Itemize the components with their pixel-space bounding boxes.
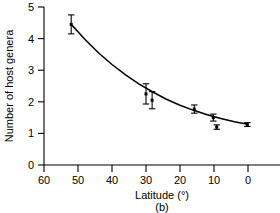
x-tick-label: 10 [208, 174, 220, 186]
y-tick-label: 1 [28, 127, 34, 139]
y-tick-label: 5 [28, 1, 34, 13]
x-tick-label: 0 [245, 174, 251, 186]
data-marker [246, 123, 249, 126]
data-point [149, 92, 155, 109]
data-marker [145, 92, 148, 95]
panel-label: (b) [155, 201, 168, 213]
trend-line [71, 24, 248, 124]
data-marker [70, 23, 73, 26]
x-tick-label: 20 [174, 174, 186, 186]
y-tick-label: 0 [28, 159, 34, 171]
x-tick-label: 50 [72, 174, 84, 186]
x-axis-tick-labels: 60 50 40 30 20 10 0 [38, 174, 251, 186]
data-point [214, 125, 220, 129]
data-marker [151, 99, 154, 102]
data-marker [212, 116, 215, 119]
data-points-layer [68, 15, 251, 129]
x-tick-label: 60 [38, 174, 50, 186]
chart-svg: 5 4 3 2 1 0 60 50 40 30 20 10 0 [0, 0, 280, 213]
x-tick-label: 30 [140, 174, 152, 186]
data-point [68, 15, 74, 34]
x-axis-ticks [44, 165, 248, 172]
data-marker [215, 126, 218, 129]
y-axis-ticks [38, 7, 44, 165]
y-axis-tick-labels: 5 4 3 2 1 0 [28, 1, 34, 171]
chart-figure: 5 4 3 2 1 0 60 50 40 30 20 10 0 [0, 0, 280, 213]
data-marker [193, 108, 196, 111]
x-axis-label: Latitude (°) [135, 189, 189, 201]
y-tick-label: 3 [28, 64, 34, 76]
y-tick-label: 2 [28, 96, 34, 108]
y-axis-label: Number of host genera [3, 29, 15, 142]
x-tick-label: 40 [106, 174, 118, 186]
y-tick-label: 4 [28, 33, 34, 45]
